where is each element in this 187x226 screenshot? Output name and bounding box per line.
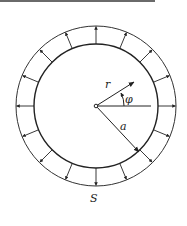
label-phi: φ [125, 93, 133, 106]
label-s: S [90, 192, 98, 205]
radial-arrow [153, 130, 169, 137]
inner-radius-arrow [96, 106, 139, 152]
radial-arrow [40, 150, 52, 162]
label-a: a [120, 120, 127, 133]
radial-arrow [66, 33, 73, 49]
label-r: r [105, 78, 111, 91]
radial-arrow [120, 33, 127, 49]
radial-arrow [120, 163, 127, 179]
angle-arc-arrow [121, 93, 124, 106]
center-point [94, 104, 98, 108]
radial-arrow [140, 150, 152, 162]
radial-arrow [40, 50, 52, 62]
radial-arrow [23, 130, 39, 137]
radial-arrow [23, 76, 39, 83]
radial-arrow [140, 50, 152, 62]
radial-arrow [66, 163, 73, 179]
radial-arrow [153, 76, 169, 83]
ring-diagram: r φ a S [0, 0, 187, 226]
